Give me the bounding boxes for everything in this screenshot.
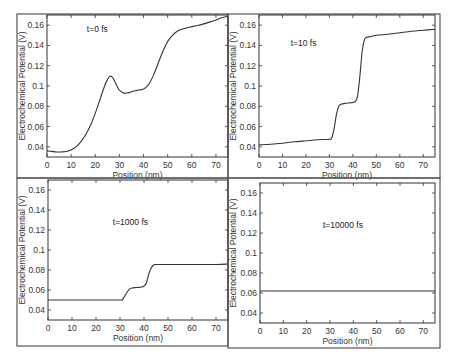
x-tick-label: 60 (187, 323, 197, 333)
potential-curve (47, 16, 228, 152)
y-tick-label: 0.12 (27, 61, 44, 71)
x-tick-label: 50 (163, 160, 173, 170)
y-tick-label: 0.06 (28, 285, 45, 295)
panel-frame (228, 14, 440, 178)
x-tick-label: 70 (211, 323, 221, 333)
y-tick-label: 0.08 (239, 101, 256, 111)
y-tick-label: 0.14 (27, 40, 44, 50)
x-tick-label: 40 (349, 326, 359, 336)
y-tick-label: 0.16 (27, 20, 44, 30)
y-axis-label: Electrochemical Potential (V) (228, 198, 238, 307)
x-tick-label: 70 (419, 160, 429, 170)
x-tick-label: 40 (348, 160, 358, 170)
y-axis-label: Electrochemical Potential (V) (17, 31, 27, 140)
y-tick-label: 0.1 (33, 245, 45, 255)
time-annotation: t=10 fs (291, 38, 317, 48)
y-tick-label: 0.04 (240, 308, 257, 318)
y-tick-label: 0.16 (240, 188, 257, 198)
time-annotation: t=10000 fs (323, 220, 363, 230)
x-tick-label: 20 (302, 326, 312, 336)
y-tick-label: 0.06 (239, 122, 256, 132)
panel-t10: 0.040.060.080.10.120.140.160102030405060… (228, 14, 440, 180)
x-tick-label: 30 (325, 326, 335, 336)
y-tick-label: 0.06 (240, 288, 257, 298)
x-tick-label: 20 (301, 160, 311, 170)
y-tick-label: 0.08 (240, 268, 257, 278)
x-tick-label: 10 (66, 160, 76, 170)
x-tick-label: 0 (257, 160, 262, 170)
y-tick-label: 0.14 (240, 208, 257, 218)
panel-t10000: 0.040.060.080.10.120.140.160102030405060… (228, 178, 440, 348)
time-annotation: t=0 fs (87, 24, 108, 34)
time-annotation: t=1000 fs (113, 217, 148, 227)
y-tick-label: 0.08 (28, 265, 45, 275)
figure: 0.040.060.080.10.120.140.160102030405060… (0, 0, 453, 361)
x-tick-label: 0 (46, 323, 51, 333)
y-tick-label: 0.1 (245, 248, 257, 258)
x-tick-label: 0 (45, 160, 50, 170)
x-tick-label: 10 (278, 160, 288, 170)
y-tick-label: 0.12 (239, 61, 256, 71)
x-tick-label: 30 (325, 160, 335, 170)
x-tick-label: 70 (419, 326, 429, 336)
panel-t1000: 0.040.060.080.10.120.140.160102030405060… (17, 178, 228, 346)
plot-area (47, 15, 228, 157)
panel-frame (17, 178, 228, 346)
x-axis-label: Position (nm) (113, 333, 163, 343)
y-tick-label: 0.16 (28, 185, 45, 195)
y-tick-label: 0.1 (32, 81, 44, 91)
y-tick-label: 0.12 (240, 228, 257, 238)
x-tick-label: 30 (115, 323, 125, 333)
y-tick-label: 0.14 (239, 40, 256, 50)
x-tick-label: 70 (211, 160, 221, 170)
y-tick-label: 0.04 (27, 142, 44, 152)
x-tick-label: 50 (163, 323, 173, 333)
x-tick-label: 60 (395, 160, 405, 170)
x-tick-label: 50 (372, 160, 382, 170)
x-tick-label: 0 (258, 326, 263, 336)
x-tick-label: 60 (395, 326, 405, 336)
plot-area (260, 183, 435, 323)
x-tick-label: 50 (372, 326, 382, 336)
x-tick-label: 30 (115, 160, 125, 170)
x-tick-label: 40 (139, 160, 149, 170)
y-tick-label: 0.08 (27, 101, 44, 111)
y-tick-label: 0.1 (244, 81, 256, 91)
x-tick-label: 10 (67, 323, 77, 333)
potential-curve (259, 29, 435, 145)
y-axis-label: Electrochemical Potential (V) (228, 31, 238, 140)
x-tick-label: 60 (187, 160, 197, 170)
y-tick-label: 0.14 (28, 205, 45, 215)
y-axis-label: Electrochemical Potential (V) (17, 195, 27, 304)
x-tick-label: 40 (139, 323, 149, 333)
y-tick-label: 0.04 (28, 305, 45, 315)
y-tick-label: 0.16 (239, 20, 256, 30)
plot-area (48, 180, 228, 320)
y-tick-label: 0.12 (28, 225, 45, 235)
panel-frame (17, 14, 228, 178)
y-tick-label: 0.04 (239, 142, 256, 152)
plot-area (259, 15, 435, 157)
x-tick-label: 20 (91, 323, 101, 333)
x-tick-label: 20 (91, 160, 101, 170)
y-tick-label: 0.06 (27, 122, 44, 132)
x-axis-label: Position (nm) (322, 336, 372, 346)
panel-t0: 0.040.060.080.10.120.140.160102030405060… (17, 14, 228, 180)
x-tick-label: 10 (279, 326, 289, 336)
potential-curve (48, 264, 228, 300)
